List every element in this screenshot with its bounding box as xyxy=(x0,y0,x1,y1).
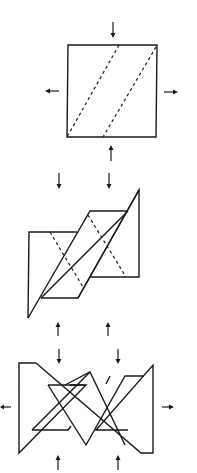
square-outline xyxy=(67,45,157,137)
arrow-left-icon xyxy=(0,405,11,410)
lower-left-bar xyxy=(32,426,71,430)
fold-line-2 xyxy=(103,47,156,137)
middle-panel-left-edge xyxy=(28,211,128,318)
right-bar-corner xyxy=(106,376,110,384)
fold-line-left xyxy=(50,232,83,287)
arrow-up-icon xyxy=(56,322,61,336)
arrow-up-icon xyxy=(116,455,121,470)
arrow-right-icon xyxy=(164,90,178,95)
folding-diagram xyxy=(0,0,197,473)
stage-3-full-fold xyxy=(0,349,174,470)
fold-line-1 xyxy=(67,45,119,137)
stage-2-partial-fold xyxy=(28,173,139,336)
arrow-left-icon xyxy=(45,89,59,94)
arrow-up-icon xyxy=(56,455,61,470)
center-peak-right xyxy=(65,372,125,445)
arrow-down-icon xyxy=(116,349,121,364)
stage-1-square xyxy=(45,22,178,161)
diagonal-edge xyxy=(78,190,139,298)
arrow-down-icon xyxy=(57,349,62,364)
arrow-right-icon xyxy=(162,405,174,410)
arrow-down-icon xyxy=(107,173,112,189)
middle-panel-right-edge xyxy=(41,190,139,298)
arrow-up-icon xyxy=(106,322,111,336)
diagonal-crease xyxy=(41,211,128,298)
arrow-up-icon xyxy=(109,145,114,161)
arrow-down-icon xyxy=(111,22,116,38)
arrow-down-icon xyxy=(57,173,62,189)
